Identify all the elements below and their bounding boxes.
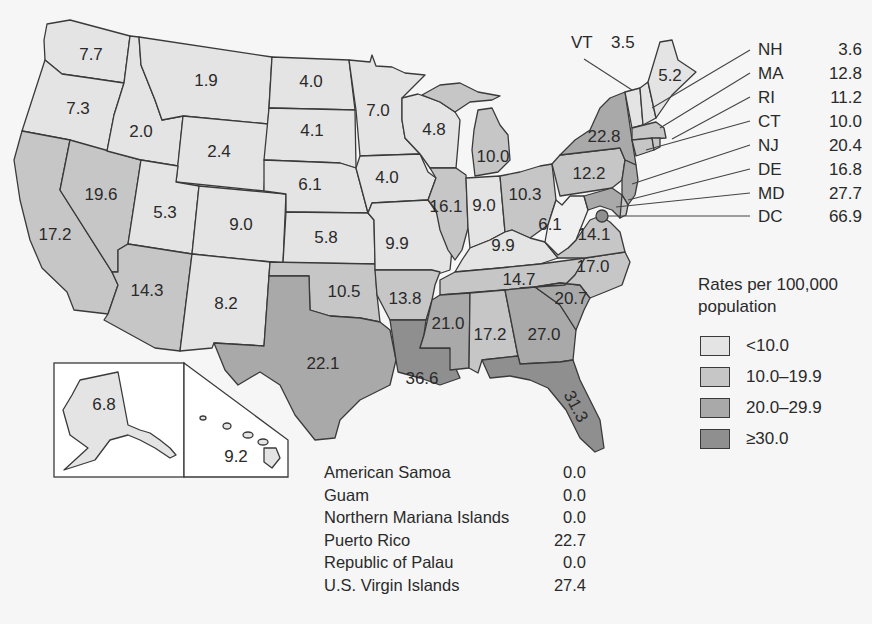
territory-name: Northern Mariana Islands <box>324 508 509 531</box>
legend-label: ≥30.0 <box>746 429 788 449</box>
label-oh: 10.3 <box>508 185 541 204</box>
label-az: 14.3 <box>130 281 163 300</box>
label-ca: 17.2 <box>38 225 71 244</box>
callout-nh-value: 3.6 <box>838 40 862 59</box>
legend-label: 10.0–19.9 <box>746 367 822 387</box>
label-wi: 4.8 <box>422 120 446 139</box>
label-ak: 6.8 <box>92 395 116 414</box>
territory-row: Northern Mariana Islands 0.0 <box>324 508 586 531</box>
legend-item-20-29: 20.0–29.9 <box>700 392 868 423</box>
label-sd: 4.1 <box>300 121 324 140</box>
inset-frame <box>54 363 288 477</box>
label-va: 14.1 <box>577 225 610 244</box>
label-la: 36.6 <box>405 369 438 388</box>
legend-item-10-19: 10.0–19.9 <box>700 361 868 392</box>
label-wy: 2.4 <box>207 142 231 161</box>
label-mt: 1.9 <box>194 71 218 90</box>
label-tn: 14.7 <box>502 270 535 289</box>
label-ok: 10.5 <box>327 282 360 301</box>
callout-ma-value: 12.8 <box>829 64 862 83</box>
territory-value: 0.0 <box>563 463 586 486</box>
legend-label: <10.0 <box>746 336 789 356</box>
label-ne: 6.1 <box>298 175 322 194</box>
label-mo: 9.9 <box>385 234 409 253</box>
legend-item-lt10: <10.0 <box>700 330 868 361</box>
territory-row: U.S. Virgin Islands 27.4 <box>324 576 586 599</box>
legend-title-line2: population <box>698 296 868 318</box>
label-pa: 12.2 <box>572 164 605 183</box>
territories-table: American Samoa 0.0 Guam 0.0 Northern Mar… <box>324 463 586 598</box>
label-me: 5.2 <box>658 66 682 85</box>
territory-value: 0.0 <box>563 486 586 509</box>
label-ut: 5.3 <box>153 203 177 222</box>
territory-row: Guam 0.0 <box>324 486 586 509</box>
callout-nj-abbr: NJ <box>758 136 779 155</box>
territory-row: American Samoa 0.0 <box>324 463 586 486</box>
territory-value: 22.7 <box>554 531 586 554</box>
label-al: 17.2 <box>473 325 506 344</box>
legend-label: 20.0–29.9 <box>746 398 822 418</box>
territory-name: Guam <box>324 486 369 509</box>
label-id: 2.0 <box>129 122 153 141</box>
territory-name: American Samoa <box>324 463 451 486</box>
territory-name: Republic of Palau <box>324 553 453 576</box>
territory-row: Republic of Palau 0.0 <box>324 553 586 576</box>
legend-item-gte30: ≥30.0 <box>700 423 868 454</box>
label-co: 9.0 <box>229 215 253 234</box>
label-mi: 10.0 <box>476 147 509 166</box>
vt-abbr: VT <box>571 33 593 52</box>
callout-de-abbr: DE <box>758 160 782 179</box>
territory-name: Puerto Rico <box>324 531 410 554</box>
label-ny: 22.8 <box>587 127 620 146</box>
label-wv: 6.1 <box>538 215 562 234</box>
callout-de-value: 16.8 <box>829 160 862 179</box>
callout-nh-abbr: NH <box>758 40 783 59</box>
territory-value: 0.0 <box>563 508 586 531</box>
state-ct <box>632 138 654 156</box>
label-nv: 19.6 <box>84 185 117 204</box>
callout-ma-abbr: MA <box>758 64 784 83</box>
territory-value: 0.0 <box>563 553 586 576</box>
label-nm: 8.2 <box>214 294 238 313</box>
label-or: 7.3 <box>66 99 90 118</box>
vt-callout: VT 3.5 <box>571 33 635 90</box>
callout-nj-value: 20.4 <box>829 136 862 155</box>
label-nc: 17.0 <box>576 257 609 276</box>
callout-md-value: 27.7 <box>829 184 862 203</box>
legend-swatch <box>700 367 730 387</box>
legend-swatch <box>700 429 730 449</box>
territory-name: U.S. Virgin Islands <box>324 576 459 599</box>
state-dc <box>596 210 608 222</box>
label-ms: 21.0 <box>431 314 464 333</box>
callout-ri-abbr: RI <box>758 88 775 107</box>
callout-dc-value: 66.9 <box>829 207 862 226</box>
label-ia: 4.0 <box>375 168 399 187</box>
territory-row: Puerto Rico 22.7 <box>324 531 586 554</box>
territory-value: 27.4 <box>554 576 586 599</box>
legend-swatch <box>700 398 730 418</box>
label-nd: 4.0 <box>299 72 323 91</box>
map-legend: Rates per 100,000 population <10.0 10.0–… <box>698 274 868 454</box>
label-sc: 20.7 <box>554 289 587 308</box>
label-in: 9.0 <box>472 196 496 215</box>
label-ky: 9.9 <box>491 236 515 255</box>
label-mn: 7.0 <box>366 101 390 120</box>
callout-md-abbr: MD <box>758 184 784 203</box>
label-il: 16.1 <box>429 197 462 216</box>
label-hi: 9.2 <box>224 447 248 466</box>
callout-ri-value: 11.2 <box>830 88 862 107</box>
label-ga: 27.0 <box>527 325 560 344</box>
label-ks: 5.8 <box>314 228 338 247</box>
legend-swatch <box>700 336 730 356</box>
label-wa: 7.7 <box>79 45 103 64</box>
callout-dc-abbr: DC <box>758 207 783 226</box>
vt-value: 3.5 <box>611 33 635 52</box>
label-ar: 13.8 <box>388 289 421 308</box>
callout-ct-value: 10.0 <box>829 112 862 131</box>
label-tx: 22.1 <box>306 354 339 373</box>
callout-ct-abbr: CT <box>758 112 781 131</box>
legend-title-line1: Rates per 100,000 <box>698 274 868 296</box>
